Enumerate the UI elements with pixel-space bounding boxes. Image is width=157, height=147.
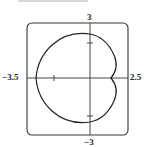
y-min-label: −3 <box>84 138 94 147</box>
cropped-text-remnant <box>18 0 88 2</box>
x-max-label: 2.5 <box>130 73 141 82</box>
x-min-label: −3.5 <box>2 73 18 82</box>
plot-frame <box>27 23 128 135</box>
y-max-label: 3 <box>87 13 92 22</box>
